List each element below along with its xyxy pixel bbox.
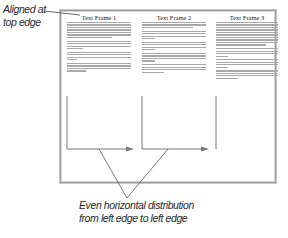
arrowhead-icon xyxy=(126,147,134,152)
bottom-leader-right xyxy=(127,149,168,198)
top-leader-line xyxy=(44,11,80,15)
bottom-leader-left xyxy=(99,149,127,198)
annotation-line: from left edge to left edge xyxy=(79,212,194,225)
annotation-line: Even horizontal distribution xyxy=(79,199,194,212)
distribution-annotation: Even horizontal distribution from left e… xyxy=(79,199,194,225)
arrowhead-icon xyxy=(201,147,209,152)
